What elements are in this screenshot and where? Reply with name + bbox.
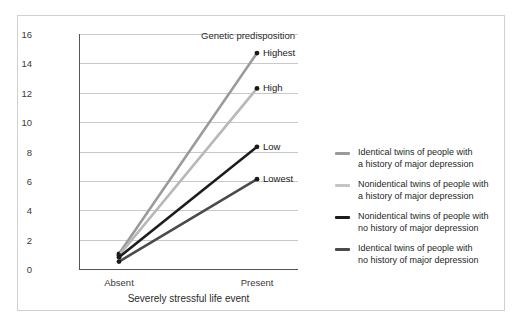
series-highest [117,51,260,257]
x-tick-label-present: Present [222,277,292,288]
series-high [117,86,260,258]
marker-lowest-absent [117,259,122,264]
legend-swatch-icon-identical-history [335,152,350,155]
legend-label-nonidentical-nohistory: Nonidentical twins of people with no his… [358,211,489,234]
legend-label-nonidentical-history: Nonidentical twins of people with a hist… [358,179,489,202]
marker-lowest-present [255,177,260,182]
y-tick-label-2: 2 [0,236,32,246]
legend-swatch-icon-nonidentical-history [335,184,350,187]
figure-frame: 16 14 12 10 8 6 4 2 0 Chance of onset of… [17,15,505,311]
y-tick-label-10: 10 [0,118,32,128]
legend-item-nonidentical-history: Nonidentical twins of people with a hist… [335,179,495,202]
y-tick-label-6: 6 [0,177,32,187]
series-group-title: Genetic predisposition [201,30,295,41]
point-label-lowest: Lowest [263,173,293,184]
y-tick-label-14: 14 [0,59,32,69]
series-lines [79,34,298,270]
y-tick-label-4: 4 [0,206,32,216]
legend-label-identical-history: Identical twins of people with a history… [358,147,474,170]
legend-label-line2: a history of major depression [358,191,474,201]
y-tick-label-12: 12 [0,89,32,99]
line-lowest [119,179,257,261]
legend-item-identical-nohistory: Identical twins of people with no histor… [335,243,495,266]
plot-area: 16 14 12 10 8 6 4 2 0 Chance of onset of… [79,34,298,269]
legend-label-line1: Identical twins of people with [358,147,473,157]
series-low [117,144,260,259]
marker-low-absent [117,255,122,260]
line-highest [119,53,257,254]
point-label-highest: Highest [263,47,295,58]
legend-label-line1: Nonidentical twins of people with [358,179,489,189]
legend-swatch-icon-nonidentical-nohistory [335,216,350,219]
legend-label-line1: Identical twins of people with [358,243,473,253]
y-tick-label-0: 0 [0,265,32,275]
legend-label-line2: a history of major depression [358,159,474,169]
marker-high-present [255,86,260,91]
legend-label-line1: Nonidentical twins of people with [358,211,489,221]
y-tick-label-8: 8 [0,148,32,158]
x-axis-label: Severely stressful life event [79,293,298,304]
legend-label-line2: no history of major depression [358,255,479,265]
y-tick-label-16: 16 [0,30,32,40]
legend-swatch-icon-identical-nohistory [335,248,350,251]
line-high [119,88,257,255]
legend: Identical twins of people with a history… [335,147,495,275]
point-label-high: High [263,82,283,93]
legend-label-line2: no history of major depression [358,223,479,233]
point-label-low: Low [263,141,280,152]
legend-item-nonidentical-nohistory: Nonidentical twins of people with no his… [335,211,495,234]
series-lowest [117,177,260,264]
marker-highest-present [255,51,260,56]
legend-item-identical-history: Identical twins of people with a history… [335,147,495,170]
marker-low-present [255,144,260,149]
line-low [119,147,257,257]
x-tick-label-absent: Absent [84,277,154,288]
legend-label-identical-nohistory: Identical twins of people with no histor… [358,243,479,266]
